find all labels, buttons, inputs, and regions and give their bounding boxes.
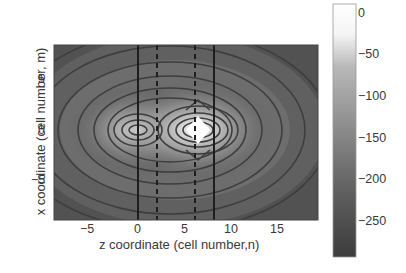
y-tick: 5	[38, 72, 45, 86]
colorbar	[333, 4, 356, 257]
plot-area	[10, 30, 330, 230]
x-tick: 5	[181, 222, 188, 236]
y-tick: 0	[38, 123, 45, 137]
colorbar-tick: 0	[358, 6, 365, 20]
colorbar-tick: −150	[358, 131, 386, 145]
y-tick: −5	[31, 173, 45, 187]
x-axis-label: z coordinate (cell number,n)	[99, 237, 259, 252]
x-tick: 0	[134, 222, 141, 236]
colorbar-tick: −50	[358, 47, 379, 61]
colorbar-tick: −200	[358, 172, 386, 186]
x-tick: 15	[270, 222, 284, 236]
colorbar-tick: −100	[358, 89, 386, 103]
x-tick: 10	[224, 222, 238, 236]
figure	[0, 0, 406, 273]
x-tick: −5	[80, 222, 94, 236]
colorbar-tick: −250	[358, 214, 386, 228]
